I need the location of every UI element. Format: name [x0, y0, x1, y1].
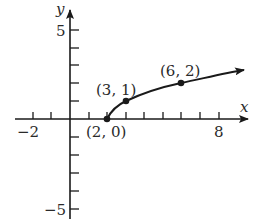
point-label-6-2: (6, 2) — [160, 62, 200, 80]
function-graph: y x 5 −5 −2 8 (2, 0) (3, 1) (6, 2) — [0, 0, 254, 219]
point-label-3-1: (3, 1) — [96, 81, 136, 99]
y-axis-label: y — [55, 0, 65, 18]
point-6-2 — [178, 80, 185, 87]
y-tick-label-5: 5 — [56, 22, 66, 40]
point-label-2-0: (2, 0) — [86, 123, 126, 141]
x-ticks — [33, 112, 219, 119]
y-tick-label-neg5: −5 — [44, 201, 66, 219]
x-axis-label: x — [240, 98, 249, 116]
point-2-0 — [104, 116, 111, 123]
x-tick-label-neg2: −2 — [17, 123, 39, 141]
x-tick-label-8: 8 — [214, 123, 224, 141]
